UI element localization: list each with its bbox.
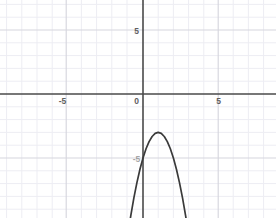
y-tick-label-neg5: -5 <box>133 154 141 164</box>
x-tick-label-neg5: -5 <box>59 96 67 106</box>
graph-canvas: -5 0 5 5 -5 <box>0 0 276 218</box>
y-tick-label-pos5: 5 <box>134 26 139 36</box>
coordinate-plane-svg: -5 0 5 5 -5 <box>0 0 276 218</box>
x-tick-label-pos5: 5 <box>216 96 221 106</box>
x-tick-label-zero: 0 <box>134 96 139 106</box>
